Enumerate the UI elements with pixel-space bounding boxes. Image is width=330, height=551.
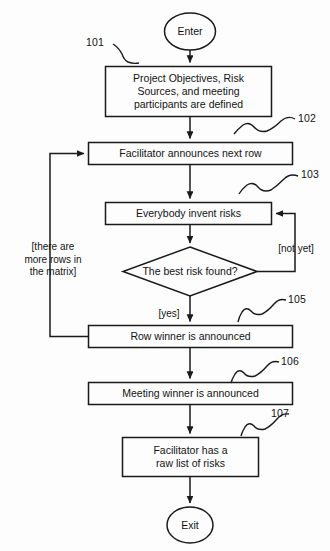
decision-diamond-shape xyxy=(123,247,257,296)
process-box-105-shape xyxy=(89,326,293,348)
terminator-enter-shape xyxy=(165,13,216,50)
reference-numeral-105: 105 xyxy=(288,293,306,305)
leader-line-101 xyxy=(113,44,139,63)
process-box-101-shape xyxy=(106,67,272,117)
leader-line-102 xyxy=(234,117,295,134)
reference-numeral-102: 102 xyxy=(298,112,316,124)
reference-numeral-101: 101 xyxy=(86,36,104,48)
leader-line-103 xyxy=(239,175,298,194)
flowchart-canvas: Enter Exit Project Objectives, Risk Sour… xyxy=(0,0,330,551)
process-box-107-shape xyxy=(123,438,259,477)
process-box-103-shape xyxy=(106,203,272,225)
process-box-102-shape xyxy=(89,143,293,165)
edge-label-not-yet: [not yet] xyxy=(268,243,324,256)
reference-numeral-107: 107 xyxy=(271,407,289,419)
leader-line-105 xyxy=(238,300,286,323)
reference-numeral-106: 106 xyxy=(281,355,299,367)
edge-label-more-rows: [there are more rows in the matrix] xyxy=(13,241,93,279)
reference-numeral-103: 103 xyxy=(301,168,319,180)
terminator-exit-shape xyxy=(167,507,213,543)
process-box-106-shape xyxy=(89,383,293,405)
leader-line-106 xyxy=(231,362,279,384)
edge-label-yes: [yes] xyxy=(152,308,186,321)
